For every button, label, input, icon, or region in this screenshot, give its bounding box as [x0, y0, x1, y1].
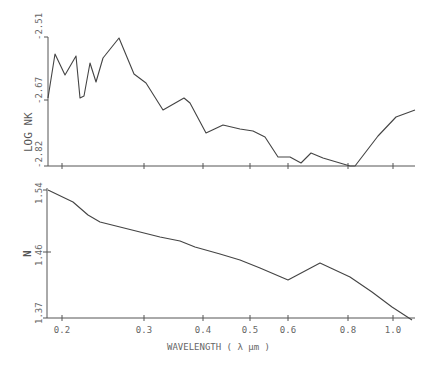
bottom-ytick-0: 1.54 — [34, 182, 44, 204]
chart: -2.51 -2.67 -2.82 LOG NK 1.54 1.46 1.37 … — [0, 0, 440, 370]
bottom-ytick-1: 1.46 — [34, 244, 44, 266]
top-ylabel: LOG NK — [22, 112, 35, 152]
bottom-ytick-2: 1.37 — [34, 302, 44, 324]
xtick-1: 0.3 — [136, 325, 152, 335]
xtick-5: 0.8 — [340, 325, 356, 335]
xtick-2: 0.4 — [195, 325, 211, 335]
xtick-3: 0.5 — [242, 325, 258, 335]
top-ytick-2: -2.82 — [34, 141, 44, 168]
bottom-ylabel: N — [21, 250, 34, 257]
x-tick-labels: 0.2 0.3 0.4 0.5 0.6 0.8 1.0 — [54, 325, 401, 335]
xtick-6: 1.0 — [385, 325, 401, 335]
top-ytick-1: -2.67 — [34, 77, 44, 104]
x-axis-label: WAVELENGTH ( λ μm ) — [167, 342, 270, 352]
log-nk-series — [48, 38, 415, 166]
top-ytick-0: -2.51 — [34, 13, 44, 40]
n-series — [48, 190, 412, 320]
xtick-0: 0.2 — [54, 325, 70, 335]
bottom-panel: 1.54 1.46 1.37 N 0.2 0.3 0.4 0.5 0.6 0.8… — [21, 182, 415, 352]
top-panel: -2.51 -2.67 -2.82 LOG NK — [22, 13, 415, 169]
xtick-4: 0.6 — [280, 325, 296, 335]
